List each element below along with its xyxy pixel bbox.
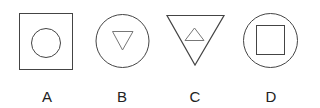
option-c-label: C: [180, 88, 210, 105]
inner-square: [257, 26, 285, 55]
inner-inverted-triangle: [113, 32, 134, 51]
option-c-figure[interactable]: [167, 16, 224, 66]
inner-circle: [32, 29, 61, 58]
option-b-figure[interactable]: [96, 15, 149, 68]
option-a-figure[interactable]: [20, 14, 73, 70]
inner-triangle: [185, 28, 204, 41]
outer-square: [20, 14, 73, 70]
option-a-label: A: [32, 88, 62, 105]
option-b-label: B: [107, 88, 137, 105]
option-d-figure[interactable]: [244, 14, 298, 68]
outer-circle: [96, 15, 149, 68]
option-d-label: D: [256, 88, 286, 105]
outer-circle: [244, 14, 298, 68]
